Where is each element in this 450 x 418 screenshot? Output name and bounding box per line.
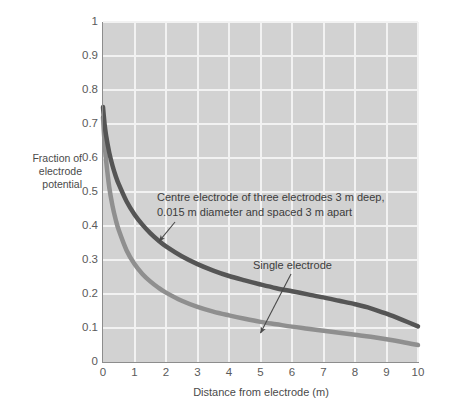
x-axis-line [103, 362, 419, 363]
y-tick-label: 0.7 [56, 118, 98, 130]
annotation-single-electrode-label: Single electrode [253, 258, 373, 273]
y-axis-line [102, 22, 103, 363]
y-tick-label: 0.1 [56, 322, 98, 334]
x-tick-label: 9 [372, 366, 402, 378]
x-tick-label: 0 [88, 366, 118, 378]
x-tick-label: 4 [214, 366, 244, 378]
x-tick-label: 6 [277, 366, 307, 378]
y-tick-label: 0.9 [56, 50, 98, 62]
x-tick-label: 2 [151, 366, 181, 378]
x-axis-title: Distance from electrode (m) [103, 386, 419, 398]
y-tick-label: 1 [56, 16, 98, 28]
y-tick-label: 0.8 [56, 84, 98, 96]
y-tick-label: 0.4 [56, 220, 98, 232]
x-tick-label: 3 [183, 366, 213, 378]
x-tick-label: 7 [309, 366, 339, 378]
annotation-centre-electrode-label: Centre electrode of three electrodes 3 m… [157, 190, 409, 219]
y-axis-title: Fraction of electrode potential [6, 152, 82, 191]
y-tick-label: 0.2 [56, 288, 98, 300]
x-tick-label: 8 [340, 366, 370, 378]
chart-figure: 00.10.20.30.40.50.60.70.80.91 0123456789… [0, 0, 450, 418]
x-tick-label: 1 [120, 366, 150, 378]
x-tick-label: 5 [246, 366, 276, 378]
x-tick-label: 10 [403, 366, 433, 378]
y-tick-label: 0.3 [56, 254, 98, 266]
